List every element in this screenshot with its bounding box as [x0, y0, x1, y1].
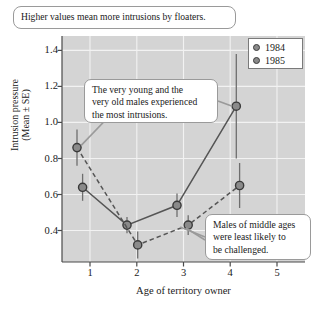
y-axis-title: Intrusion pressure (Mean ± SE): [9, 45, 31, 185]
legend-label: 1984: [265, 43, 285, 53]
figure: 0.40.60.81.01.21.4 12345 Intrusion press…: [0, 0, 317, 310]
annotation-line: the most intrusions.: [92, 109, 210, 121]
y-axis-title-line1: Intrusion pressure: [9, 45, 20, 185]
legend-marker-icon: [253, 57, 260, 64]
annotation-callout-middle: The very young and thevery old males exp…: [84, 79, 218, 123]
x-tick-label: 2: [127, 268, 147, 279]
legend: 1984 1985: [248, 38, 303, 69]
x-tick-label: 4: [220, 268, 240, 279]
annotation-line: Males of middle ages: [213, 219, 303, 231]
y-tick-label: 0.6: [24, 190, 58, 201]
annotation-line: were least likely to: [213, 231, 303, 243]
y-axis-title-line2: (Mean ± SE): [20, 45, 31, 185]
x-tick-label: 3: [174, 268, 194, 279]
legend-marker-icon: [253, 44, 260, 51]
y-tick-label: 0.4: [24, 226, 58, 237]
annotation-callout-bottom: Males of middle ageswere least likely to…: [205, 214, 311, 260]
annotation-line: be challenged.: [213, 244, 303, 256]
annotation-line: Higher values mean more intrusions by fl…: [21, 11, 228, 23]
legend-item-1984: 1984: [253, 41, 302, 54]
x-tick-label: 5: [267, 268, 287, 279]
legend-label: 1985: [265, 56, 285, 66]
legend-item-1985: 1985: [253, 54, 302, 67]
annotation-line: very old males experienced: [92, 96, 210, 108]
annotation-line: The very young and the: [92, 84, 210, 96]
annotation-callout-top: Higher values mean more intrusions by fl…: [13, 6, 236, 29]
x-tick-label: 1: [80, 268, 100, 279]
x-axis-title: Age of territory owner: [62, 285, 305, 296]
